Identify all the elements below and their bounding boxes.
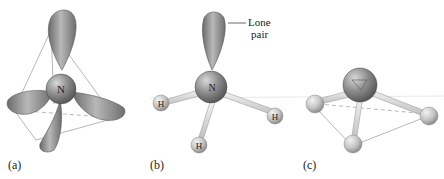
panel-label-b: (b): [150, 158, 164, 173]
nitrogen-symbol: N: [208, 82, 215, 93]
orbital-lobe-right: [72, 92, 125, 120]
hydrogen-atom-bottom: [344, 135, 362, 153]
orbital-lobe-left: [7, 90, 52, 114]
orbital-lobe-bottom: [40, 100, 62, 152]
diagram-canvas: N N H H H: [0, 0, 444, 179]
panel-label-a: (a): [8, 158, 21, 173]
hydrogen-atom-left: [306, 95, 324, 113]
hydrogen-atom-right: [420, 107, 438, 125]
hydrogen-symbol: H: [272, 112, 279, 122]
lone-pair-label-line1: Lone: [248, 16, 271, 28]
lone-pair-lobe: [202, 12, 225, 70]
panel-a-graphic: N: [7, 10, 125, 152]
panel-label-c: (c): [303, 158, 316, 173]
lone-pair-label-line2: pair: [248, 28, 271, 40]
hydrogen-symbol: H: [196, 141, 203, 151]
panel-c-graphic: [306, 68, 438, 153]
hydrogen-symbol: H: [158, 99, 165, 109]
nitrogen-symbol: N: [57, 83, 65, 95]
lone-pair-annotation: Lone pair: [248, 16, 271, 40]
nitrogen-atom: [343, 68, 377, 102]
